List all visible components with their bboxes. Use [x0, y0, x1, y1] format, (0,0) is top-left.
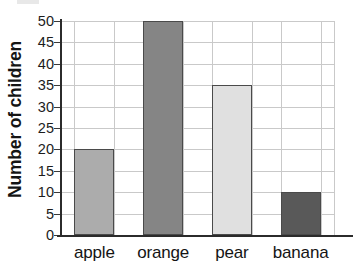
y-tick-label: 30 [28, 99, 54, 114]
y-axis-title: Number of children [0, 0, 30, 238]
x-axis-category-labels: appleorangepearbanana [60, 240, 357, 270]
x-axis-line [57, 235, 353, 237]
y-axis-title-text: Number of children [5, 41, 26, 198]
y-tick-label: 25 [28, 121, 54, 136]
gridline-vertical [321, 21, 322, 235]
gridline-vertical [183, 21, 184, 235]
gridline-horizontal [60, 85, 335, 86]
gridline-horizontal [60, 21, 335, 22]
gridline-vertical [334, 21, 335, 235]
y-tick-label: 15 [28, 164, 54, 179]
bar-apple [74, 149, 114, 235]
gridline-horizontal [60, 64, 335, 65]
y-tick-label: 40 [28, 57, 54, 72]
x-category-label-banana: banana [266, 240, 335, 266]
y-tick-label: 20 [28, 142, 54, 157]
y-tick-label: 10 [28, 185, 54, 200]
y-axis-tick-labels: 05101520253035404550 [28, 0, 54, 238]
x-category-label-pear: pear [198, 240, 267, 266]
plot-area [60, 21, 335, 235]
bar-banana [281, 192, 321, 235]
y-tick-label: 45 [28, 35, 54, 50]
gridline-horizontal [60, 107, 335, 108]
y-tick-label: 50 [28, 14, 54, 29]
y-tick-label: 5 [28, 206, 54, 221]
gridline-horizontal [60, 42, 335, 43]
bar-orange [143, 21, 183, 235]
bar-pear [212, 85, 252, 235]
x-category-label-apple: apple [60, 240, 129, 266]
gridline-horizontal [60, 128, 335, 129]
y-axis-line [60, 19, 62, 237]
y-tick-label: 0 [28, 228, 54, 243]
y-tick-label: 35 [28, 78, 54, 93]
gridline-vertical [114, 21, 115, 235]
gridline-vertical [252, 21, 253, 235]
x-category-label-orange: orange [129, 240, 198, 266]
bar-chart: Number of children 05101520253035404550 … [0, 0, 357, 273]
